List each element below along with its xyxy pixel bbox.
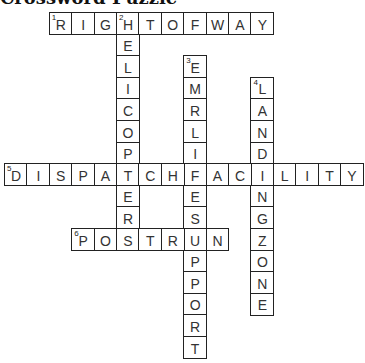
crossword-cell[interactable]: F <box>183 163 207 186</box>
cell-letter: R <box>168 233 178 249</box>
crossword-cell[interactable]: O <box>161 12 185 35</box>
crossword-cell[interactable]: R <box>116 206 140 229</box>
crossword-cell[interactable]: I <box>250 163 274 186</box>
crossword-cell[interactable]: N <box>250 271 274 294</box>
crossword-cell[interactable]: G <box>94 12 118 35</box>
crossword-cell[interactable]: Y <box>250 12 274 35</box>
crossword-cell[interactable]: O <box>116 120 140 143</box>
cell-letter: O <box>100 233 111 249</box>
crossword-cell[interactable]: A <box>250 98 274 121</box>
crossword-cell[interactable]: A <box>228 12 252 35</box>
crossword-cell[interactable]: S <box>49 163 73 186</box>
cell-letter: I <box>81 17 85 33</box>
crossword-cell[interactable]: H <box>161 163 185 186</box>
crossword-cell[interactable]: T <box>183 336 207 359</box>
crossword-cell[interactable]: I <box>116 77 140 100</box>
crossword-cell[interactable]: E <box>183 185 207 208</box>
crossword-cell[interactable]: E <box>116 185 140 208</box>
cell-letter: L <box>124 60 132 76</box>
cell-letter: E <box>123 38 132 54</box>
crossword-cell[interactable]: E <box>116 34 140 57</box>
clue-number: 5 <box>7 164 11 173</box>
clue-number: 2 <box>119 13 123 22</box>
crossword-cell[interactable]: T <box>138 228 162 251</box>
cell-letter: Y <box>258 17 267 33</box>
cell-letter: U <box>190 233 200 249</box>
crossword-cell[interactable]: A <box>206 163 230 186</box>
crossword-cell[interactable]: M <box>183 77 207 100</box>
cell-letter: C <box>123 103 133 119</box>
cell-letter: E <box>190 60 199 76</box>
crossword-cell[interactable]: R1 <box>49 12 73 35</box>
crossword-cell[interactable]: D5 <box>4 163 28 186</box>
clue-number: 3 <box>186 56 190 65</box>
crossword-cell[interactable]: G <box>250 206 274 229</box>
crossword-cell[interactable]: P <box>183 271 207 294</box>
crossword-cell[interactable]: W <box>206 12 230 35</box>
cell-letter: H <box>168 168 178 184</box>
crossword-cell[interactable]: R <box>183 314 207 337</box>
cell-letter: I <box>36 168 40 184</box>
crossword-cell[interactable]: L <box>183 120 207 143</box>
crossword-cell[interactable]: N <box>250 120 274 143</box>
cell-letter: I <box>126 81 130 97</box>
cell-letter: E <box>258 297 267 313</box>
crossword-cell[interactable]: O <box>183 293 207 316</box>
crossword-cell[interactable]: Z <box>250 228 274 251</box>
crossword-cell[interactable]: H2 <box>116 12 140 35</box>
cell-letter: I <box>260 168 264 184</box>
cell-letter: A <box>258 103 267 119</box>
cell-letter: P <box>190 254 199 270</box>
crossword-cell[interactable]: P6 <box>71 228 95 251</box>
cell-letter: N <box>212 233 222 249</box>
clue-number: 6 <box>74 229 78 238</box>
crossword-cell[interactable]: T <box>116 163 140 186</box>
crossword-cell[interactable]: I <box>26 163 50 186</box>
cell-letter: O <box>257 254 268 270</box>
cell-letter: T <box>325 168 334 184</box>
crossword-cell[interactable]: O <box>94 228 118 251</box>
cell-letter: N <box>257 189 267 205</box>
cell-letter: W <box>211 17 224 33</box>
crossword-cell[interactable]: S <box>116 228 140 251</box>
cell-letter: S <box>56 168 65 184</box>
crossword-cell[interactable]: I <box>71 12 95 35</box>
cell-letter: L <box>258 81 266 97</box>
crossword-cell[interactable]: E <box>250 293 274 316</box>
crossword-cell[interactable]: R <box>161 228 185 251</box>
crossword-cell[interactable]: C <box>228 163 252 186</box>
crossword-cell[interactable]: U <box>183 228 207 251</box>
crossword-cell[interactable]: N <box>206 228 230 251</box>
crossword-cell[interactable]: P <box>71 163 95 186</box>
crossword-cell[interactable]: P <box>183 250 207 273</box>
crossword-cell[interactable]: C <box>116 98 140 121</box>
crossword-grid: R1IGH2TOFWAYELICOPTERE3MRLIFESUPPORTL4AN… <box>0 0 365 363</box>
cell-letter: A <box>235 17 244 33</box>
cell-letter: T <box>124 168 133 184</box>
cell-letter: F <box>191 168 200 184</box>
crossword-cell[interactable]: R <box>183 98 207 121</box>
cell-letter: N <box>257 276 267 292</box>
crossword-cell[interactable]: T <box>318 163 342 186</box>
cell-letter: R <box>190 319 200 335</box>
crossword-cell[interactable]: S <box>183 206 207 229</box>
crossword-cell[interactable]: I <box>295 163 319 186</box>
cell-letter: N <box>257 125 267 141</box>
crossword-cell[interactable]: L <box>116 55 140 78</box>
cell-letter: T <box>146 233 155 249</box>
crossword-cell[interactable]: N <box>250 185 274 208</box>
crossword-cell[interactable]: Y <box>340 163 364 186</box>
crossword-cell[interactable]: L <box>273 163 297 186</box>
crossword-cell[interactable]: A <box>94 163 118 186</box>
cell-letter: P <box>123 146 132 162</box>
crossword-cell[interactable]: O <box>250 250 274 273</box>
crossword-cell[interactable]: C <box>138 163 162 186</box>
crossword-cell[interactable]: P <box>116 142 140 165</box>
cell-letter: R <box>123 211 133 227</box>
crossword-cell[interactable]: T <box>138 12 162 35</box>
crossword-cell[interactable]: F <box>183 12 207 35</box>
crossword-cell[interactable]: L4 <box>250 77 274 100</box>
crossword-cell[interactable]: I <box>183 142 207 165</box>
crossword-cell[interactable]: E3 <box>183 55 207 78</box>
crossword-cell[interactable]: D <box>250 142 274 165</box>
